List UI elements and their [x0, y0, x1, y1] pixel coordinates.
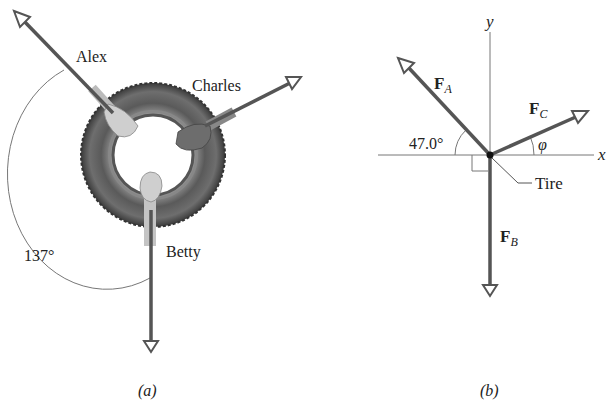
- label-charles: Charles: [192, 77, 241, 94]
- figure-canvas: Alex Charles Betty 137° (a) x y Tire: [0, 0, 614, 414]
- panel-a: Alex Charles Betty 137° (a): [7, 11, 301, 400]
- tire-leader-line: [492, 158, 532, 183]
- right-angle-marker: [472, 155, 488, 171]
- label-alex: Alex: [76, 48, 107, 65]
- label-angle-47: 47.0°: [409, 135, 443, 152]
- caption-b: (b): [480, 382, 499, 400]
- label-fa-symbol: F: [434, 74, 444, 93]
- x-axis-label: x: [597, 145, 606, 164]
- arrowhead-charles-icon: [286, 77, 301, 89]
- panel-b: x y Tire FA FC FB 47.0° φ: [378, 12, 606, 400]
- label-fa-subscript: A: [443, 82, 452, 96]
- angle-arc-47: [455, 130, 466, 155]
- y-axis-label: y: [484, 12, 494, 31]
- label-betty: Betty: [166, 243, 201, 261]
- arrowhead-fc-icon: [572, 111, 588, 123]
- label-fc-subscript: C: [539, 107, 548, 121]
- label-angle-phi: φ: [538, 136, 547, 154]
- arrowhead-fb-icon: [483, 285, 497, 296]
- label-angle-137: 137°: [24, 247, 54, 264]
- caption-a: (a): [138, 382, 157, 400]
- arrowhead-betty-icon: [144, 341, 158, 352]
- label-fc-symbol: F: [529, 99, 539, 118]
- label-fb: FB: [500, 227, 518, 249]
- label-fc: FC: [529, 99, 548, 121]
- label-fb-subscript: B: [510, 235, 518, 249]
- label-tire: Tire: [535, 174, 563, 193]
- label-fb-symbol: F: [500, 227, 510, 246]
- tire-point: [487, 152, 494, 159]
- label-fa: FA: [434, 74, 452, 96]
- force-arrow-alex: [23, 20, 113, 113]
